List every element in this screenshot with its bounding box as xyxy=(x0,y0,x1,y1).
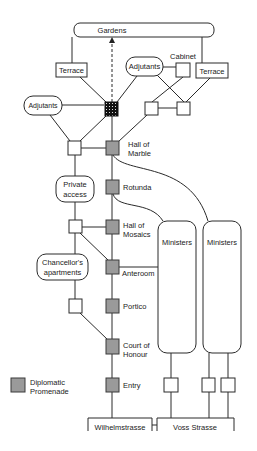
private-access-label-1: Private xyxy=(63,180,86,189)
junction-square xyxy=(69,299,82,313)
hall-of-marble-label-2: Marble xyxy=(128,149,151,158)
legend-label-2: Promenade xyxy=(30,387,69,396)
promenade-entry xyxy=(106,378,119,392)
promenade-rotunda xyxy=(106,180,119,194)
rotunda-label: Rotunda xyxy=(123,183,152,192)
terrace-right-label: Terrace xyxy=(199,67,224,76)
ministers-1-label: Ministers xyxy=(162,238,192,247)
junction-square xyxy=(221,378,235,392)
chancellors-apartments-label-1: Chancellor's xyxy=(42,258,83,267)
private-access-label-2: access xyxy=(63,190,87,199)
promenade-hall-of-mosaics xyxy=(106,220,119,234)
junction-square xyxy=(164,378,178,392)
hatched-node xyxy=(105,102,118,116)
terrace-left-label: Terrace xyxy=(59,66,84,75)
court-of-honour-label-2: Honour xyxy=(123,350,148,359)
hall-of-mosaics-label-2: Mosaics xyxy=(123,230,151,239)
court-of-honour-label-1: Court of xyxy=(123,341,151,350)
adjutants-right-label: Adjutants xyxy=(129,62,161,71)
promenade-anteroom xyxy=(106,260,119,274)
promenade-court-of-honour xyxy=(106,339,119,354)
adjutants-left-label: Adjutants xyxy=(28,102,58,110)
anteroom-label: Anteroom xyxy=(122,269,155,278)
chancellors-apartments-label-2: apartments xyxy=(44,268,82,277)
entry-label: Entry xyxy=(123,381,141,390)
promenade-portico xyxy=(106,299,119,313)
junction-square xyxy=(145,102,158,115)
access-diagram: Gardens Terrace Terrace Adjutants Adjuta… xyxy=(0,0,257,451)
voss-strasse-label: Voss Strasse xyxy=(173,423,217,432)
hall-of-marble-label-1: Hall of xyxy=(128,140,150,149)
legend-swatch xyxy=(11,378,25,392)
gardens-label: Gardens xyxy=(98,26,127,35)
promenade-hall-of-marble xyxy=(106,141,119,155)
legend-label-1: Diplomatic xyxy=(30,378,65,387)
portico-label: Portico xyxy=(123,302,146,311)
cabinet-box xyxy=(176,63,190,77)
ministers-2-label: Ministers xyxy=(207,238,237,247)
junction-square xyxy=(68,141,81,155)
junction-square xyxy=(202,378,215,392)
cabinet-label: Cabinet xyxy=(170,52,197,61)
junction-square xyxy=(177,102,190,115)
wilhelmstrasse-label: Wilhelmstrasse xyxy=(95,423,146,432)
gardens-box xyxy=(74,23,214,37)
hall-of-mosaics-label-1: Hall of xyxy=(123,221,145,230)
junction-square xyxy=(69,220,82,233)
